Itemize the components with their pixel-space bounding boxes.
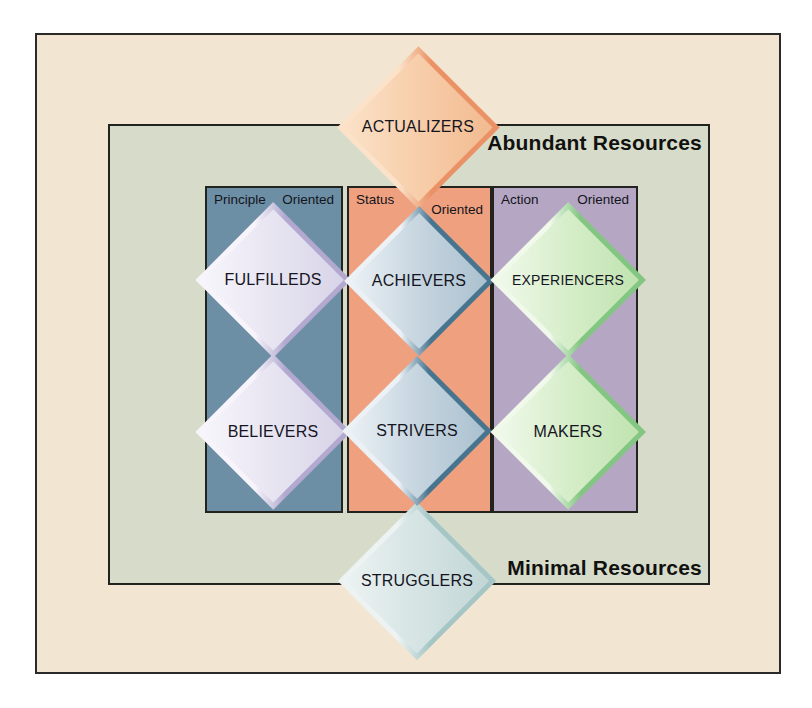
segment-label: FULFILLEDS <box>195 202 351 358</box>
vals-framework-diagram: Principle Oriented Status Oriented Actio… <box>0 0 812 708</box>
segment-experiencers: EXPERIENCERS <box>490 202 646 358</box>
segment-believers: BELIEVERS <box>195 354 351 510</box>
segment-fulfilleds: FULFILLEDS <box>195 202 351 358</box>
abundant-resources-label: Abundant Resources <box>487 131 702 155</box>
segment-label: MAKERS <box>490 354 646 510</box>
segment-achievers: ACHIEVERS <box>344 206 494 356</box>
segment-label: EXPERIENCERS <box>490 202 646 358</box>
segment-strugglers: STRUGGLERS <box>338 502 496 660</box>
segment-actualizers: ACTUALIZERS <box>337 46 499 208</box>
segment-label: BELIEVERS <box>195 354 351 510</box>
segment-strivers: STRIVERS <box>342 356 492 506</box>
segment-label: ACTUALIZERS <box>337 46 499 208</box>
segment-makers: MAKERS <box>490 354 646 510</box>
minimal-resources-label: Minimal Resources <box>507 556 702 580</box>
segment-label: ACHIEVERS <box>344 206 494 356</box>
segment-label: STRIVERS <box>342 356 492 506</box>
segment-label: STRUGGLERS <box>338 502 496 660</box>
